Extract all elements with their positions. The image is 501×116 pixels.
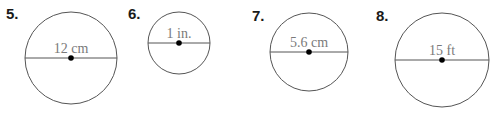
circle-6: 1 in. [148, 12, 210, 74]
diameter-label: 15 ft [429, 43, 455, 58]
diameter-label: 12 cm [54, 41, 89, 56]
center-dot [176, 40, 182, 46]
circle-5: 12 cm [25, 12, 117, 104]
circle-8: 15 ft [395, 13, 489, 107]
center-dot [439, 57, 445, 63]
circles-diagram: 12 cm 1 in. 5.6 cm 15 ft [0, 0, 501, 116]
center-dot [306, 49, 312, 55]
diameter-label: 1 in. [167, 26, 192, 41]
center-dot [68, 55, 74, 61]
circle-7: 5.6 cm [270, 13, 348, 91]
diameter-label: 5.6 cm [290, 35, 328, 50]
